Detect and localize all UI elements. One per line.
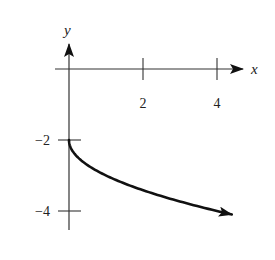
y-axis: y xyxy=(62,22,71,230)
x-tick-4: 4 xyxy=(214,58,221,111)
x-axis-label: x xyxy=(250,61,258,77)
y-tick-neg4: −4 xyxy=(35,204,81,219)
x-tick-label: 2 xyxy=(140,96,147,111)
x-tick-2: 2 xyxy=(140,58,147,111)
y-tick-label: −2 xyxy=(35,133,50,148)
y-tick-neg2: −2 xyxy=(35,133,81,148)
x-tick-label: 4 xyxy=(214,96,221,111)
y-tick-label: −4 xyxy=(35,204,50,219)
chart: x y 2 4 −2 −4 xyxy=(0,0,275,260)
function-curve xyxy=(69,140,232,214)
x-axis: x xyxy=(55,61,258,77)
y-axis-label: y xyxy=(62,22,71,38)
